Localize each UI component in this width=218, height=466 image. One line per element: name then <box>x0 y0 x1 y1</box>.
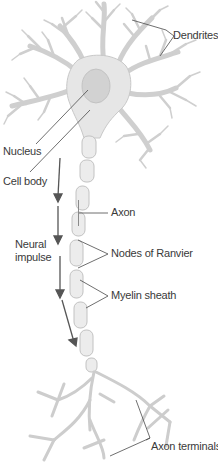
neuron-diagram <box>0 0 218 466</box>
label-axon-terminals: Axon terminals <box>151 440 218 453</box>
axon <box>70 136 97 372</box>
label-cell-body: Cell body <box>3 175 47 188</box>
axon-terminals <box>30 372 170 460</box>
label-nodes-of-ranvier: Nodes of Ranvier <box>111 247 193 260</box>
terminals-leader <box>110 400 150 456</box>
label-dendrites: Dendrites <box>173 29 218 42</box>
nucleus-shape <box>82 69 110 103</box>
cell-body <box>67 55 131 138</box>
label-myelin-sheath: Myelin sheath <box>111 289 176 302</box>
label-neural-impulse-1: Neural <box>15 238 46 251</box>
label-axon: Axon <box>111 206 135 219</box>
label-neural-impulse-2: impulse <box>15 251 52 264</box>
label-nucleus: Nucleus <box>3 145 41 158</box>
